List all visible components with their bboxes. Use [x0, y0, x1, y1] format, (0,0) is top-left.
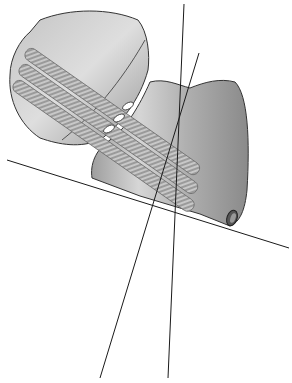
femur-illustration	[0, 0, 292, 383]
illustration	[0, 0, 292, 383]
